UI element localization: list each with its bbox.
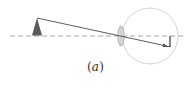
object-triangle — [32, 18, 42, 36]
figure-caption: (a) — [0, 60, 191, 74]
caption-close-paren: ) — [99, 60, 104, 74]
light-ray — [37, 18, 167, 46]
eye-optics-diagram — [0, 0, 191, 90]
